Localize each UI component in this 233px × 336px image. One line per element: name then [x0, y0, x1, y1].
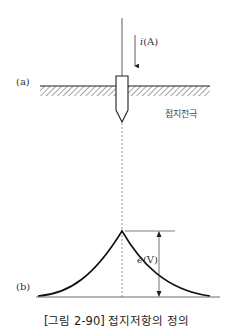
voltage-label: e(V) — [137, 254, 158, 265]
electrode-label: 접지전극 — [165, 107, 197, 120]
current-unit: (A) — [143, 36, 158, 47]
current-label: i(A) — [140, 36, 158, 47]
dimension-arrow-top-icon — [157, 231, 162, 237]
panel-a-label: (a) — [16, 76, 30, 87]
grounding-electrode — [116, 76, 128, 122]
potential-curve — [38, 231, 210, 296]
grounding-resistance-diagram — [0, 0, 233, 336]
voltage-unit: (V) — [143, 254, 158, 265]
dimension-arrow-bottom-icon — [157, 291, 162, 297]
figure-caption: [그림 2-90] 접지저항의 정의 — [0, 312, 233, 328]
panel-b — [36, 231, 220, 297]
panel-b-label: (b) — [16, 281, 30, 292]
